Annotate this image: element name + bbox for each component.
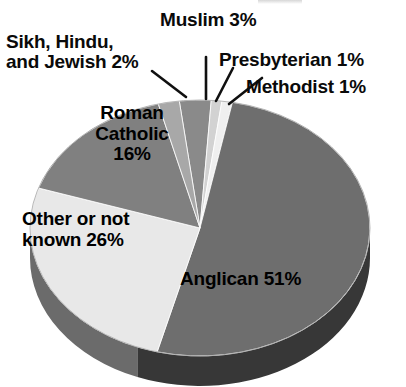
slice-label-methodist: Methodist 1% bbox=[246, 77, 366, 97]
slice-label-presbyterian: Presbyterian 1% bbox=[219, 50, 364, 70]
slice-label-other-or-not-known: Other or not known 26% bbox=[22, 209, 154, 250]
slice-label-muslim: Muslim 3% bbox=[160, 10, 256, 30]
slice-label-sikh-hindu-jewish: Sikh, Hindu, and Jewish 2% bbox=[6, 32, 139, 72]
slice-label-roman-catholic: Roman Catholic 16% bbox=[84, 103, 180, 165]
slice-label-anglican: Anglican 51% bbox=[180, 269, 320, 290]
leader-line-sikh bbox=[152, 71, 186, 97]
leader-line-presbyterian bbox=[216, 68, 233, 101]
pie-chart-figure: Sikh, Hindu, and Jewish 2% Muslim 3% Pre… bbox=[0, 0, 406, 387]
